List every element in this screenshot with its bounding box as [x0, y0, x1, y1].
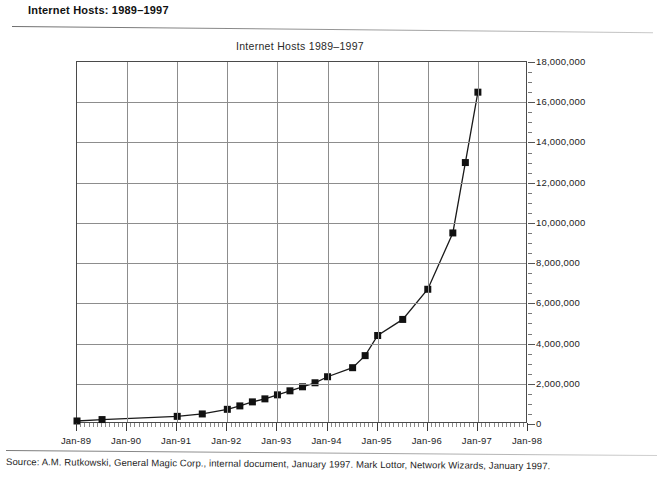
y-axis-label: 12,000,000: [536, 176, 586, 187]
x-axis-minor-tick: [164, 423, 165, 427]
x-axis-minor-tick: [372, 423, 373, 427]
x-axis-minor-tick: [122, 423, 123, 427]
gridline-vertical: [328, 62, 329, 422]
x-axis-minor-tick: [155, 423, 156, 427]
x-axis-minor-tick: [281, 423, 282, 427]
y-axis-minor-tick: [528, 253, 532, 254]
x-axis-minor-tick: [231, 423, 232, 427]
x-axis-minor-tick: [489, 423, 490, 427]
y-axis-minor-tick: [528, 293, 532, 294]
y-axis-minor-tick: [528, 404, 532, 405]
x-axis-minor-tick: [469, 423, 470, 427]
data-point-marker: [362, 352, 369, 359]
y-axis-minor-tick: [528, 283, 532, 284]
x-axis-minor-tick: [105, 423, 106, 427]
x-axis-minor-tick: [289, 423, 290, 427]
y-axis-minor-tick: [528, 374, 532, 375]
y-axis-label: 8,000,000: [536, 257, 580, 268]
x-axis-minor-tick: [160, 423, 161, 427]
x-axis-tick: [226, 423, 227, 431]
x-axis-label: Jan-91: [161, 435, 191, 446]
source-divider: [6, 450, 657, 456]
x-axis-minor-tick: [431, 423, 432, 427]
x-axis-minor-tick: [130, 423, 131, 427]
data-point-marker: [462, 159, 469, 166]
page-title: Internet Hosts: 1989–1997: [28, 4, 169, 16]
x-axis-label: Jan-92: [211, 435, 241, 446]
y-axis-minor-tick: [528, 414, 532, 415]
x-axis-minor-tick: [406, 423, 407, 427]
chart-title: Internet Hosts 1989–1997: [0, 40, 600, 52]
x-axis-minor-tick: [256, 423, 257, 427]
x-axis-minor-tick: [134, 423, 135, 427]
x-axis-minor-tick: [260, 423, 261, 427]
data-point-marker: [312, 379, 319, 386]
gridline-vertical: [428, 62, 429, 422]
y-axis-label: 14,000,000: [536, 136, 586, 147]
figure-page: Internet Hosts: 1989–1997 Internet Hosts…: [0, 0, 665, 481]
x-axis-minor-tick: [172, 423, 173, 427]
x-axis-minor-tick: [264, 423, 265, 427]
x-axis-minor-tick: [464, 423, 465, 427]
x-axis-minor-tick: [498, 423, 499, 427]
gridline-vertical: [177, 62, 178, 422]
x-axis-minor-tick: [293, 423, 294, 427]
data-point-marker: [261, 395, 268, 402]
y-axis-minor-tick: [528, 334, 532, 335]
x-axis-minor-tick: [143, 423, 144, 427]
x-axis-minor-tick: [381, 423, 382, 427]
x-axis-minor-tick: [89, 423, 90, 427]
x-axis-minor-tick: [139, 423, 140, 427]
gridline-horizontal: [77, 384, 526, 385]
data-point-marker: [286, 387, 293, 394]
y-axis-tick: [528, 142, 535, 143]
x-axis-minor-tick: [368, 423, 369, 427]
y-axis-minor-tick: [528, 193, 532, 194]
y-axis-tick: [528, 344, 535, 345]
x-axis-minor-tick: [97, 423, 98, 427]
x-axis-minor-tick: [310, 423, 311, 427]
chart-figure: Internet Hosts 1989–1997 02,000,0004,000…: [0, 30, 665, 438]
x-axis-minor-tick: [272, 423, 273, 427]
gridline-horizontal: [77, 183, 526, 184]
x-axis-minor-tick: [84, 423, 85, 427]
x-axis-minor-tick: [519, 423, 520, 427]
gridline-horizontal: [77, 223, 526, 224]
x-axis-minor-tick: [168, 423, 169, 427]
x-axis-minor-tick: [494, 423, 495, 427]
gridline-vertical: [478, 62, 479, 422]
y-axis-minor-tick: [528, 233, 532, 234]
y-axis-minor-tick: [528, 354, 532, 355]
y-axis-label: 4,000,000: [536, 337, 580, 348]
y-axis-label: 0: [536, 418, 541, 429]
x-axis-label: Jan-89: [61, 435, 91, 446]
x-axis-label: Jan-94: [311, 435, 341, 446]
y-axis-label: 6,000,000: [536, 297, 580, 308]
x-axis-minor-tick: [268, 423, 269, 427]
y-axis-minor-tick: [528, 243, 532, 244]
x-axis-minor-tick: [485, 423, 486, 427]
x-axis-minor-tick: [523, 423, 524, 427]
x-axis-minor-tick: [147, 423, 148, 427]
x-axis-minor-tick: [448, 423, 449, 427]
x-axis-tick: [477, 423, 478, 431]
data-point-marker: [349, 364, 356, 371]
x-axis-minor-tick: [197, 423, 198, 427]
gridline-horizontal: [77, 303, 526, 304]
y-axis-tick: [528, 384, 535, 385]
x-axis-minor-tick: [456, 423, 457, 427]
data-point-marker: [236, 402, 243, 409]
x-axis-minor-tick: [335, 423, 336, 427]
x-axis-label: Jan-97: [462, 435, 492, 446]
gridline-vertical: [227, 62, 228, 422]
y-axis-minor-tick: [528, 122, 532, 123]
x-axis-minor-tick: [185, 423, 186, 427]
x-axis-label: Jan-93: [261, 435, 291, 446]
x-axis-minor-tick: [352, 423, 353, 427]
y-axis-minor-tick: [528, 112, 532, 113]
x-axis-minor-tick: [189, 423, 190, 427]
y-axis-label: 2,000,000: [536, 377, 580, 388]
x-axis-minor-tick: [218, 423, 219, 427]
x-axis-minor-tick: [322, 423, 323, 427]
x-axis-minor-tick: [398, 423, 399, 427]
